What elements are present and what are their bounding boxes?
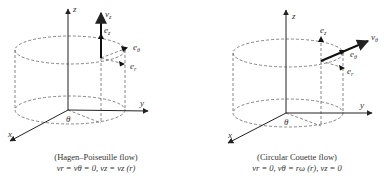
er-label: er bbox=[347, 66, 354, 77]
etheta-label: eθ bbox=[350, 49, 357, 60]
hagen-poiseuille-caption: (Hagen–Poiseuille flow) vr = vθ = 0, vz … bbox=[30, 152, 162, 174]
theta-label: θ bbox=[284, 117, 289, 127]
theta-label: θ bbox=[66, 114, 71, 124]
y-axis bbox=[68, 110, 148, 111]
dashed-cylinder bbox=[233, 38, 344, 127]
etheta-label: eθ bbox=[133, 42, 140, 53]
hagen-poiseuille-diagram: z y x θ vz ez eθ er bbox=[7, 4, 148, 141]
x-axis-label: x bbox=[7, 129, 12, 139]
vz-label: vz bbox=[105, 9, 112, 20]
ez-label: ez bbox=[320, 25, 327, 36]
caption-title: (Circular Couette flow) bbox=[222, 152, 372, 163]
er-label: er bbox=[130, 61, 137, 72]
x-axis-label: x bbox=[227, 130, 232, 140]
vtheta-label: vθ bbox=[371, 32, 378, 43]
y-axis-label: y bbox=[359, 100, 364, 110]
ez-label: ez bbox=[104, 25, 111, 36]
x-axis bbox=[228, 113, 286, 143]
z-axis-label: z bbox=[291, 11, 296, 21]
caption-title: (Hagen–Poiseuille flow) bbox=[30, 152, 162, 163]
caption-equation: vr = vθ = 0, vz = vz (r) bbox=[30, 163, 162, 174]
circular-couette-diagram: z y x θ vθ ez eθ er bbox=[227, 10, 378, 143]
circular-couette-caption: (Circular Couette flow) vr = 0, vθ = rω … bbox=[222, 152, 372, 174]
axes bbox=[10, 9, 148, 141]
z-axis-label: z bbox=[72, 4, 77, 14]
y-axis-label: y bbox=[139, 98, 144, 108]
caption-equation: vr = 0, vθ = rω (r), vz = 0 bbox=[222, 163, 372, 174]
